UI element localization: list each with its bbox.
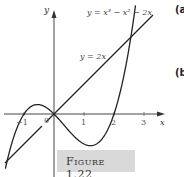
line-y-2x [46,15,153,122]
side-label-b: (b [175,68,184,78]
tick-label-0: 0 [44,117,49,125]
line-equation-label: y = 2x [80,53,106,61]
y-axis-arrow-icon [52,10,57,18]
tick-label-1: 1 [81,119,86,127]
tick-label-3: 3 [141,119,146,127]
figure-caption: Figure 1.22 [66,155,135,177]
figure-caption-box: Figure 1.22 [57,150,135,172]
side-label-a: (a [175,5,184,15]
line-y-2x-lower [5,126,42,163]
curve-cubic [5,5,135,168]
x-axis-label: x [160,119,165,127]
y-axis-label: y [44,6,49,15]
tick-label-2: 2 [111,119,116,127]
cubic-equation-label: y = x³ − x² − 2x [87,9,152,17]
x-axis-arrow-icon [157,112,165,117]
tick-label-neg1: −1 [16,119,28,127]
